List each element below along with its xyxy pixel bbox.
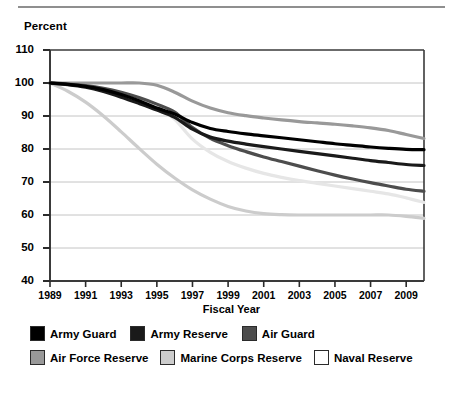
x-axis-tick-label: 1989 [30, 289, 70, 301]
legend-label-naval-reserve: Naval Reserve [334, 352, 413, 364]
x-axis-tick-label: 1999 [208, 289, 248, 301]
chart-legend: Army Guard Army Reserve Air Guard Air Fo… [30, 326, 440, 374]
y-axis-tick-label: 70 [4, 175, 34, 187]
y-axis-tick-label: 60 [4, 208, 34, 220]
legend-item-army-reserve[interactable]: Army Reserve [130, 326, 227, 341]
legend-item-marine-corps-reserve[interactable]: Marine Corps Reserve [160, 350, 301, 365]
y-axis-tick-label: 90 [4, 109, 34, 121]
legend-swatch-marine-corps-reserve [160, 350, 175, 365]
legend-item-naval-reserve[interactable]: Naval Reserve [314, 350, 413, 365]
legend-swatch-army-guard [30, 326, 45, 341]
legend-label-army-guard: Army Guard [50, 328, 116, 340]
legend-swatch-army-reserve [130, 326, 145, 341]
x-axis-tick-label: 2005 [315, 289, 355, 301]
legend-swatch-naval-reserve [314, 350, 329, 365]
legend-swatch-air-guard [242, 326, 257, 341]
y-axis-tick-label: 80 [4, 142, 34, 154]
y-axis-tick-label: 50 [4, 241, 34, 253]
legend-item-army-guard[interactable]: Army Guard [30, 326, 116, 341]
legend-item-air-guard[interactable]: Air Guard [242, 326, 315, 341]
x-axis-tick-label: 1993 [101, 289, 141, 301]
legend-row-1: Army Guard Army Reserve Air Guard [30, 326, 440, 341]
legend-row-2: Air Force Reserve Marine Corps Reserve N… [30, 350, 440, 365]
legend-item-air-force-reserve[interactable]: Air Force Reserve [30, 350, 148, 365]
legend-label-air-guard: Air Guard [262, 328, 315, 340]
y-axis-tick-label: 110 [4, 43, 34, 55]
x-axis-tick-label: 2003 [279, 289, 319, 301]
y-axis-tick-label: 100 [4, 76, 34, 88]
x-axis-tick-label: 1995 [137, 289, 177, 301]
x-axis-tick-label: 1991 [66, 289, 106, 301]
x-axis-tick-label: 2007 [351, 289, 391, 301]
x-axis-tick-label: 2009 [386, 289, 426, 301]
legend-label-marine-corps-reserve: Marine Corps Reserve [180, 352, 301, 364]
legend-label-air-force-reserve: Air Force Reserve [50, 352, 148, 364]
legend-swatch-air-force-reserve [30, 350, 45, 365]
legend-label-army-reserve: Army Reserve [150, 328, 227, 340]
x-axis-tick-label: 2001 [244, 289, 284, 301]
x-axis-tick-label: 1997 [172, 289, 212, 301]
x-axis-title: Fiscal Year [0, 303, 463, 315]
y-axis-tick-label: 40 [4, 274, 34, 286]
